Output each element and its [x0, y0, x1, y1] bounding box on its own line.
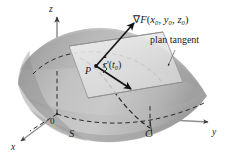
- origin-marker: [56, 113, 58, 115]
- paren-close: ): [185, 14, 189, 25]
- tangent-vector-r: r: [103, 59, 107, 70]
- curve-C-label: C: [145, 129, 152, 140]
- surface-S-label: S: [69, 129, 74, 140]
- tangent-vector-close-paren: ): [118, 59, 121, 70]
- plan-tangent-label: plan tangent: [150, 35, 199, 45]
- point-P-label: P: [85, 66, 91, 76]
- axis-z-label: z: [49, 5, 53, 15]
- gradient-label: ∇F(x0, y0, z0): [133, 14, 189, 26]
- surface-tangent-plane-diagram: [0, 0, 225, 168]
- point-P-marker: [94, 64, 98, 68]
- origin-label: 0: [50, 117, 55, 126]
- axis-y-label: y: [212, 128, 216, 138]
- tangent-vector-label: r'(t0): [103, 60, 121, 71]
- axis-x-label: x: [11, 143, 15, 153]
- vector-arrow-accent-icon: r: [103, 60, 107, 70]
